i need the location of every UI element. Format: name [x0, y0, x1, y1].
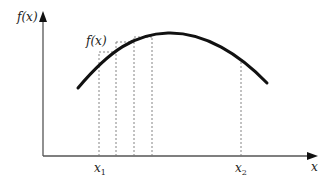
x-axis-arrow-icon: [307, 152, 318, 160]
y-axis-arrow-icon: [39, 11, 47, 22]
function-diagram: f(x) f(x) x x1 x2: [0, 0, 331, 179]
x1-label: x1: [94, 161, 106, 177]
curve-label: f(x): [85, 34, 107, 48]
y-axis-label: f(x): [16, 10, 38, 24]
x-axis-label: x: [311, 160, 318, 174]
x2-label: x2: [235, 161, 247, 177]
dashed-rectangles: [99, 37, 241, 156]
